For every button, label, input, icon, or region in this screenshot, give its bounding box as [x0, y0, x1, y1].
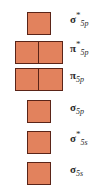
degenerate-orbital-group — [15, 41, 63, 64]
mo-energy-level: π5p — [0, 68, 100, 91]
orbital-label: σ*5p — [70, 14, 100, 25]
orbital-box — [27, 12, 51, 35]
orbital-subscript: 5s — [76, 169, 83, 178]
orbital-label: σ5p — [70, 102, 100, 113]
orbital-box — [15, 68, 40, 91]
orbital-subscript: 5s — [80, 138, 87, 147]
mo-energy-level: σ*5s — [0, 131, 100, 154]
orbital-box — [27, 131, 51, 154]
orbital-label: π5p — [70, 70, 100, 81]
orbital-subscript: 5p — [76, 107, 84, 116]
mo-energy-level: σ5p — [0, 100, 100, 123]
mo-energy-level: σ5s — [0, 162, 100, 185]
orbital-box — [15, 41, 40, 64]
orbital-subscript: 5p — [80, 19, 88, 28]
mo-energy-level: π*5p — [0, 41, 100, 64]
orbital-group — [27, 162, 51, 185]
orbital-box — [27, 100, 51, 123]
orbital-group — [27, 131, 51, 154]
mo-energy-level: σ*5p — [0, 12, 100, 35]
orbital-label: σ5s — [70, 164, 100, 175]
orbital-box — [27, 162, 51, 185]
orbital-group — [27, 100, 51, 123]
orbital-label: π*5p — [70, 43, 100, 54]
orbital-group — [27, 12, 51, 35]
molecular-orbital-diagram: σ*5pπ*5pπ5pσ5pσ*5sσ5s — [0, 0, 100, 189]
orbital-label: σ*5s — [70, 133, 100, 144]
orbital-box — [38, 41, 63, 64]
orbital-box — [38, 68, 63, 91]
degenerate-orbital-group — [15, 68, 63, 91]
orbital-subscript: 5p — [76, 75, 84, 84]
orbital-subscript: 5p — [81, 48, 89, 57]
